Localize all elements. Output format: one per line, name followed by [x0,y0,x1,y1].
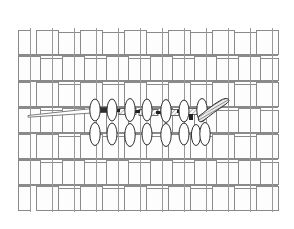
lifted-strand [179,123,189,145]
lifted-strand [142,99,152,121]
lifted-strand [200,123,210,146]
weave-row [18,186,278,210]
weave-row [18,160,278,184]
lifted-strand [191,125,200,146]
weave-row [18,56,278,80]
technical-drawing-canvas [0,0,294,229]
lifted-strand [125,99,135,122]
weave-row [18,30,278,54]
lifted-strand [161,100,171,123]
lifted-strand [107,99,117,121]
lifted-strand [161,124,171,147]
lifted-strand [179,100,189,122]
lifted-strand [90,99,100,121]
figure-root: Fig 4 [0,0,294,229]
lifted-strand [107,123,117,145]
lifted-strand [90,123,100,146]
lifted-strand [125,124,135,147]
lifted-strand [142,123,152,145]
